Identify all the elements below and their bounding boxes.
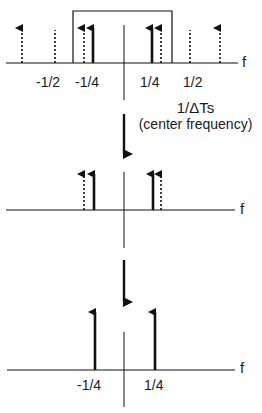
- panel-3-spectrum: [7, 312, 235, 407]
- tick-minus-quarter-3: -1/4: [77, 378, 101, 392]
- tick-plus-quarter-3: 1/4: [144, 378, 163, 392]
- tick-plus-quarter: 1/4: [140, 75, 159, 89]
- tick-plus-half: 1/2: [183, 75, 202, 89]
- axis-label-f-2: f: [240, 202, 244, 216]
- tick-minus-quarter: -1/4: [75, 75, 99, 89]
- spectrum-diagram: [0, 0, 262, 413]
- axis-label-f-1: f: [242, 55, 246, 69]
- tick-minus-half: -1/2: [36, 75, 60, 89]
- panel-2-spectrum: [6, 172, 235, 248]
- center-frequency-annotation: 1/ΔTs (center frequency): [129, 100, 262, 132]
- annotation-line-2: (center frequency): [129, 116, 262, 132]
- filter-box: [73, 11, 172, 63]
- annotation-line-1: 1/ΔTs: [129, 100, 262, 116]
- axis-label-f-3: f: [240, 361, 244, 375]
